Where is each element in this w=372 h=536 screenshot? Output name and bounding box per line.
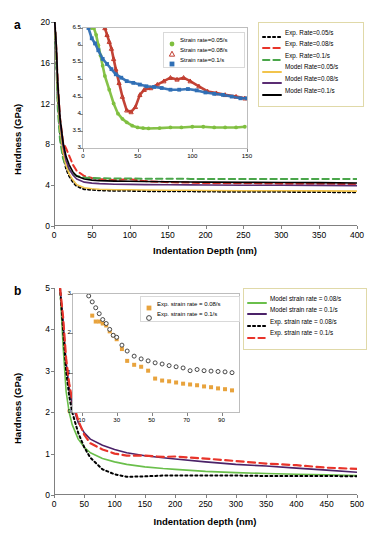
- tick-label: 30: [103, 416, 131, 423]
- tick-mark: [70, 294, 73, 295]
- tick-label: 2: [41, 328, 71, 335]
- tick-label: 450: [313, 499, 341, 509]
- legend-label: Model strain rate = 0.1/s: [270, 307, 338, 313]
- legend-item[interactable]: Strain rate=0.08/s: [166, 45, 242, 55]
- tick-label: 350: [252, 499, 280, 509]
- tick-mark: [236, 495, 237, 498]
- legend-swatch: [247, 329, 267, 339]
- tick-label: 50: [138, 416, 166, 423]
- legend-item[interactable]: Exp. Rate=0.05/s: [262, 27, 360, 39]
- tick-label: 1: [20, 449, 50, 459]
- tick-label: 250: [229, 230, 257, 240]
- legend-item[interactable]: Exp. strain rate = 0.08/s: [247, 316, 363, 328]
- legend-item[interactable]: Exp. Rate=0.08/s: [262, 39, 360, 51]
- tick-mark: [168, 226, 169, 229]
- tick-label: 6: [51, 40, 81, 47]
- legend-swatch: [247, 317, 267, 327]
- tick-label: 4: [20, 180, 50, 190]
- tick-label: 10: [68, 416, 96, 423]
- tick-mark: [117, 413, 118, 416]
- tick-mark: [80, 62, 83, 63]
- tick-mark: [54, 495, 55, 498]
- tick-mark: [80, 114, 83, 115]
- tick-label: 350: [305, 230, 333, 240]
- legend-label: Strain rate=0.1/s: [180, 57, 224, 63]
- tick-label: 50: [124, 152, 152, 159]
- tick-label: 8: [20, 139, 50, 149]
- legend-swatch: [262, 63, 282, 73]
- legend-item[interactable]: Exp. Rate=0.1/s: [262, 50, 360, 62]
- tick-mark: [80, 45, 83, 46]
- figure-root: a Hardness (GPa) Indentation Depth (nm) …: [0, 0, 372, 536]
- legend-marker: [166, 35, 178, 45]
- legend-item[interactable]: Model strain rate = 0.08/s: [247, 293, 363, 305]
- tick-label: 250: [192, 499, 220, 509]
- tick-mark: [327, 495, 328, 498]
- tick-mark: [266, 495, 267, 498]
- tick-label: 5: [51, 74, 81, 81]
- legend-item[interactable]: Model strain rate = 0.1/s: [247, 305, 363, 317]
- tick-mark: [243, 226, 244, 229]
- tick-mark: [80, 131, 83, 132]
- legend-label: Strain rate=0.08/s: [180, 47, 228, 53]
- panel-a: a Hardness (GPa) Indentation Depth (nm) …: [0, 0, 372, 266]
- tick-mark: [82, 413, 83, 416]
- tick-mark: [70, 412, 73, 413]
- legend-swatch: [262, 51, 282, 61]
- legend-item[interactable]: Model Rate=0.08/s: [262, 73, 360, 85]
- tick-label: 100: [101, 499, 129, 509]
- tick-label: 1: [41, 368, 71, 375]
- legend-item[interactable]: Strain rate=0.1/s: [166, 55, 242, 65]
- panel-a-inset-legend: Strain rate=0.05/sStrain rate=0.08/sStra…: [163, 32, 245, 68]
- tick-label: 3: [51, 143, 81, 150]
- legend-item[interactable]: Exp. strain rate = 0.1/s: [143, 309, 237, 319]
- legend-swatch: [262, 39, 282, 49]
- tick-mark: [187, 413, 188, 416]
- tick-label: 150: [233, 152, 261, 159]
- tick-label: 50: [78, 230, 106, 240]
- tick-mark: [84, 495, 85, 498]
- legend-marker: [143, 299, 155, 309]
- legend-label: Exp. Rate=0.08/s: [285, 41, 333, 47]
- tick-mark: [247, 149, 248, 152]
- legend-label: Exp. strain rate = 0.08/s: [157, 301, 221, 307]
- legend-label: Strain rate=0.05/s: [180, 37, 228, 43]
- legend-item[interactable]: Strain rate=0.05/s: [166, 35, 242, 45]
- legend-label: Exp. strain rate = 0.08/s: [270, 319, 337, 325]
- legend-item[interactable]: Exp. strain rate = 0.08/s: [143, 299, 237, 309]
- tick-label: 500: [343, 499, 371, 509]
- tick-label: 100: [116, 230, 144, 240]
- tick-label: 400: [343, 230, 371, 240]
- tick-mark: [222, 413, 223, 416]
- panel-b-x-axis-title: Indentation depth (nm): [50, 516, 360, 527]
- legend-label: Model Rate=0.05/s: [285, 64, 338, 70]
- tick-label: 150: [131, 499, 159, 509]
- tick-mark: [192, 149, 193, 152]
- tick-mark: [80, 79, 83, 80]
- tick-label: 4.5: [51, 92, 81, 99]
- tick-label: 20: [20, 17, 50, 27]
- legend-item[interactable]: Exp. strain rate = 0.1/s: [247, 328, 363, 340]
- legend-swatch: [247, 294, 267, 304]
- tick-label: 0: [41, 407, 71, 414]
- tick-mark: [357, 226, 358, 229]
- tick-mark: [70, 333, 73, 334]
- tick-mark: [130, 226, 131, 229]
- panel-b-legend: Model strain rate = 0.08/sModel strain r…: [243, 288, 367, 350]
- panel-b: b Hardness (GPa) Indentation depth (nm) …: [0, 266, 372, 536]
- tick-label: 200: [161, 499, 189, 509]
- tick-mark: [80, 28, 83, 29]
- tick-label: 70: [173, 416, 201, 423]
- tick-label: 0: [69, 152, 97, 159]
- legend-label: Model strain rate = 0.08/s: [270, 296, 341, 302]
- tick-mark: [51, 104, 54, 105]
- tick-label: 0: [40, 499, 68, 509]
- tick-mark: [206, 495, 207, 498]
- tick-mark: [145, 495, 146, 498]
- legend-item[interactable]: Model Rate=0.1/s: [262, 85, 360, 97]
- tick-mark: [152, 413, 153, 416]
- tick-mark: [175, 495, 176, 498]
- panel-b-inset-legend: Exp. strain rate = 0.08/sExp. strain rat…: [140, 296, 240, 322]
- tick-label: 6.5: [51, 23, 81, 30]
- legend-item[interactable]: Model Rate=0.05/s: [262, 62, 360, 74]
